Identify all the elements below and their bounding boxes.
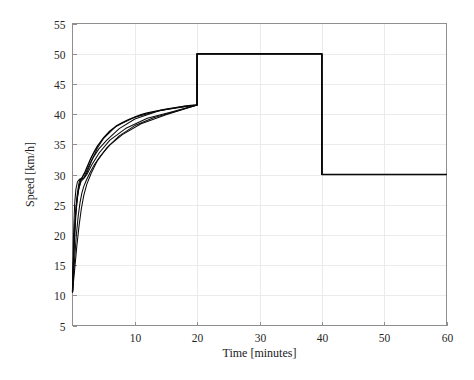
y-tick-label: 40 <box>54 109 66 121</box>
y-tick-label: 5 <box>60 321 66 333</box>
speed-vs-time-chart: 510152025303540455055 102030405060 Time … <box>0 0 474 380</box>
y-tick-label: 25 <box>54 200 66 212</box>
y-tick-label: 35 <box>54 139 66 151</box>
x-tick-label: 40 <box>317 332 329 344</box>
y-tick-label: 55 <box>54 19 66 31</box>
y-tick-label: 20 <box>54 230 66 242</box>
x-tick-label: 60 <box>442 332 454 344</box>
chart-figure: 510152025303540455055 102030405060 Time … <box>0 0 474 380</box>
chart-background <box>0 0 474 380</box>
x-tick-label: 20 <box>192 332 204 344</box>
x-axis-title: Time [minutes] <box>223 346 297 360</box>
y-tick-label: 50 <box>54 49 66 61</box>
y-tick-label: 30 <box>54 170 66 182</box>
y-tick-label: 15 <box>54 260 66 272</box>
x-tick-label: 30 <box>255 332 267 344</box>
y-axis-title: Speed [km/h] <box>23 142 37 207</box>
y-tick-label: 10 <box>54 290 66 302</box>
x-tick-label: 10 <box>130 332 142 344</box>
y-tick-label: 45 <box>54 79 66 91</box>
x-tick-label: 50 <box>379 332 391 344</box>
